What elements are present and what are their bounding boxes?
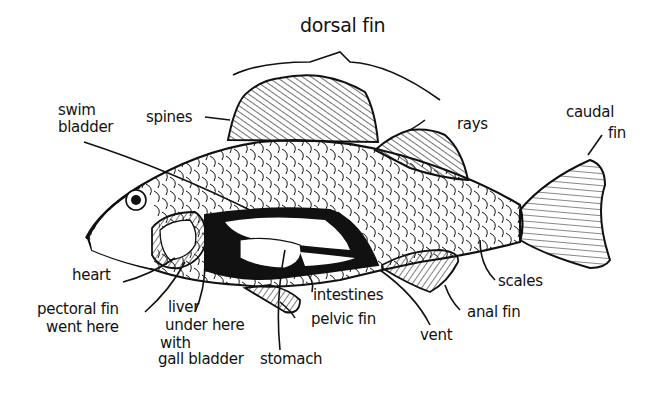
pelvic-fin: [245, 285, 300, 313]
label-caudal: caudal: [566, 105, 614, 120]
label-swim: swim: [58, 103, 96, 118]
dorsal-fin-spiny: [228, 75, 378, 142]
label-fin: fin: [608, 126, 626, 141]
fish-drawing: [0, 0, 667, 407]
label-rays: rays: [457, 117, 488, 132]
label-pectoral-fin: pectoral fin: [37, 302, 119, 317]
label-scales: scales: [498, 274, 543, 289]
fish-diagram: dorsal fin swim bladder spines rays caud…: [0, 0, 667, 407]
label-bladder: bladder: [58, 120, 113, 135]
caudal-fin: [520, 160, 610, 268]
label-stomach: stomach: [260, 352, 322, 367]
label-vent: vent: [420, 328, 452, 343]
label-heart: heart: [72, 268, 110, 283]
label-liver-under-here: under here: [165, 318, 245, 333]
label-pelvic-fin: pelvic fin: [311, 312, 376, 327]
label-dorsal-fin: dorsal fin: [300, 18, 385, 33]
label-gall-bladder: gall bladder: [158, 352, 244, 367]
label-anal-fin: anal fin: [467, 305, 520, 320]
label-liver-with: with: [160, 336, 191, 351]
label-pectoral-went-here: went here: [46, 320, 119, 335]
label-liver: liver: [168, 300, 199, 315]
label-intestines: intestines: [313, 288, 383, 303]
label-spines: spines: [146, 110, 192, 125]
